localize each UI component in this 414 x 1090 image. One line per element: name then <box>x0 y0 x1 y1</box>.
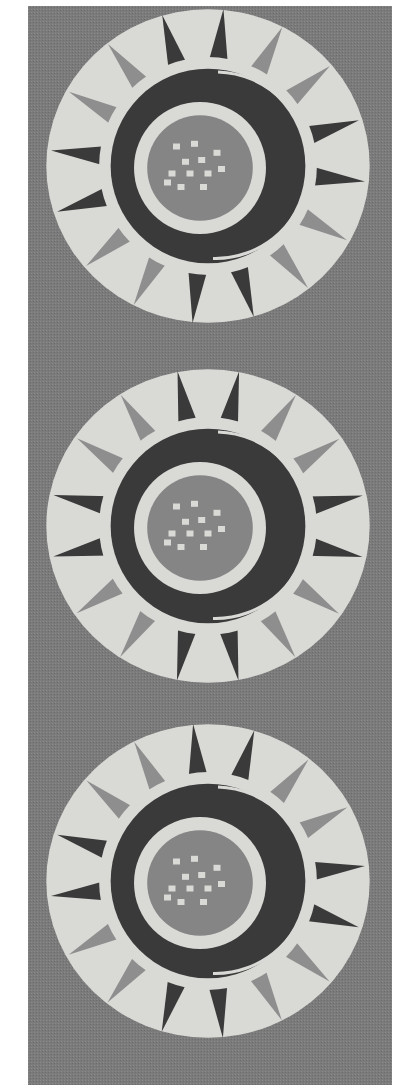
sun-medallion <box>46 9 369 323</box>
sun-medallions-artwork <box>28 6 392 1085</box>
sun-medallion <box>46 724 369 1038</box>
sun-medallion <box>46 369 369 683</box>
textile-panel <box>28 6 392 1085</box>
